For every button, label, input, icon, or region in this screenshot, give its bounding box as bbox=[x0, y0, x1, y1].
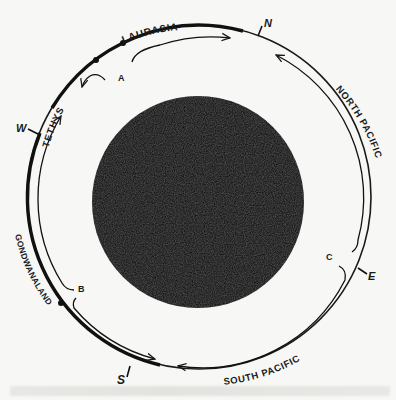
label-tethys: TETHYS bbox=[40, 105, 66, 149]
west-tick bbox=[28, 129, 38, 134]
ocean-current-diagram: LAURASIA TETHYS NORTH PACIFIC SOUTH PACI… bbox=[0, 0, 396, 400]
compass-label-s: S bbox=[117, 373, 125, 387]
compass-label-e: E bbox=[368, 270, 376, 282]
boundary-dot bbox=[58, 300, 64, 306]
current-arrow-tethys-curl bbox=[82, 75, 105, 87]
blurred-caption bbox=[10, 386, 390, 396]
compass-label-w: W bbox=[16, 122, 28, 134]
label-north-pacific: NORTH PACIFIC bbox=[334, 83, 385, 160]
point-label-a: A bbox=[118, 73, 125, 83]
compass-label-n: N bbox=[264, 17, 273, 29]
north-tick bbox=[258, 26, 262, 36]
globe-disk bbox=[92, 96, 304, 308]
laurasia-landmass bbox=[52, 25, 243, 108]
south-tick bbox=[127, 366, 130, 377]
point-label-b: B bbox=[78, 284, 85, 294]
boundary-dot bbox=[93, 57, 99, 63]
current-arrow-north-east bbox=[132, 37, 230, 62]
point-label-c: C bbox=[326, 252, 333, 262]
east-tick bbox=[358, 268, 367, 274]
